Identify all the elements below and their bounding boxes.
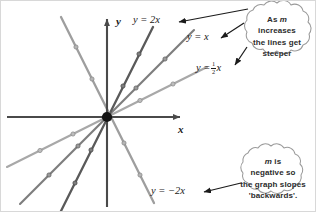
origin-dot	[102, 112, 112, 122]
axes	[7, 19, 180, 207]
label-y-x: y = x	[187, 32, 209, 43]
callout2-line4: 'backwards'.	[235, 190, 311, 201]
label-y-half-x-suffix: x	[217, 62, 222, 73]
x-axis-label: x	[178, 124, 184, 135]
callout1-italic-m: m	[280, 15, 287, 24]
fraction-denominator: 2	[211, 68, 216, 76]
y-axis-label: y	[116, 16, 121, 27]
fraction-one-half: 12	[211, 61, 216, 75]
callout-increasing-gradient-text: As m increases the lines get steeper	[241, 14, 313, 59]
callout2-line3: the graph slopes	[235, 179, 311, 190]
callout2-line2: negative so	[235, 167, 311, 178]
callout1-line2: increases	[241, 25, 313, 36]
arrow-to-y-2x	[179, 9, 248, 22]
callout1-line4: steeper	[241, 48, 313, 59]
callout1-line1: As m	[241, 14, 313, 25]
callout2-line1: m is	[235, 156, 311, 167]
label-y-half-x-prefix: y =	[196, 62, 210, 73]
label-y-half-x: y =12x	[196, 61, 221, 75]
label-y-negative-2x: y = −2x	[151, 186, 185, 197]
callout1-line3: the lines get	[241, 37, 313, 48]
callout2-italic-m: m	[265, 157, 272, 166]
figure-canvas: y x y = 2x y = x y =12x y = −2x As m inc…	[0, 0, 316, 212]
callout-negative-gradient-text: m is negative so the graph slopes 'backw…	[235, 156, 311, 201]
label-y-2x: y = 2x	[133, 15, 160, 26]
